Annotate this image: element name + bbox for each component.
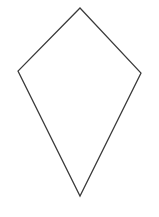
canvas-background [0, 0, 159, 217]
drawing-canvas [0, 0, 159, 217]
kite-shape-svg [0, 0, 159, 217]
